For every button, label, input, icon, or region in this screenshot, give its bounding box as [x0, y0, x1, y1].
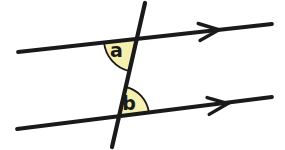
diagram-canvas: a b: [0, 0, 285, 150]
parallel-lines-transversal-diagram: a b: [0, 0, 285, 150]
transversal-line: [112, 3, 145, 147]
angle-a-label: a: [110, 39, 123, 61]
angle-b-label: b: [122, 92, 136, 114]
top-parallel-line: [18, 24, 272, 52]
